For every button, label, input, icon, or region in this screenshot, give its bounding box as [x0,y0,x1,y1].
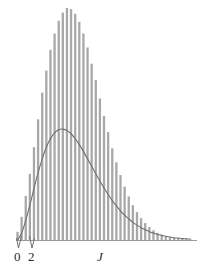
bar [86,47,88,240]
x-tick-label-0: 0 [14,250,21,263]
bar [140,218,142,240]
rotational-population-figure: 0 2 J [0,0,199,273]
bar [66,8,68,240]
bar [53,34,55,240]
bar [95,80,97,240]
bar [123,187,125,240]
bar [144,223,146,240]
bar [103,116,105,240]
plot-canvas [0,0,199,273]
bar [115,162,117,240]
bar-series [16,8,191,240]
bar [41,93,43,240]
bar [119,175,121,240]
bar [62,13,64,240]
bar [148,227,150,240]
bar [49,50,51,240]
bar [82,34,84,240]
bar [177,239,179,240]
bar [37,119,39,240]
bar [70,9,72,240]
bar [111,148,113,240]
bar [107,132,109,240]
bar [99,98,101,240]
bar [45,71,47,240]
bar [91,64,93,240]
bar [74,14,76,240]
x-axis-title: J [97,250,103,263]
bar [152,230,154,240]
x-tick-label-2: 2 [28,250,35,263]
bar [78,22,80,240]
